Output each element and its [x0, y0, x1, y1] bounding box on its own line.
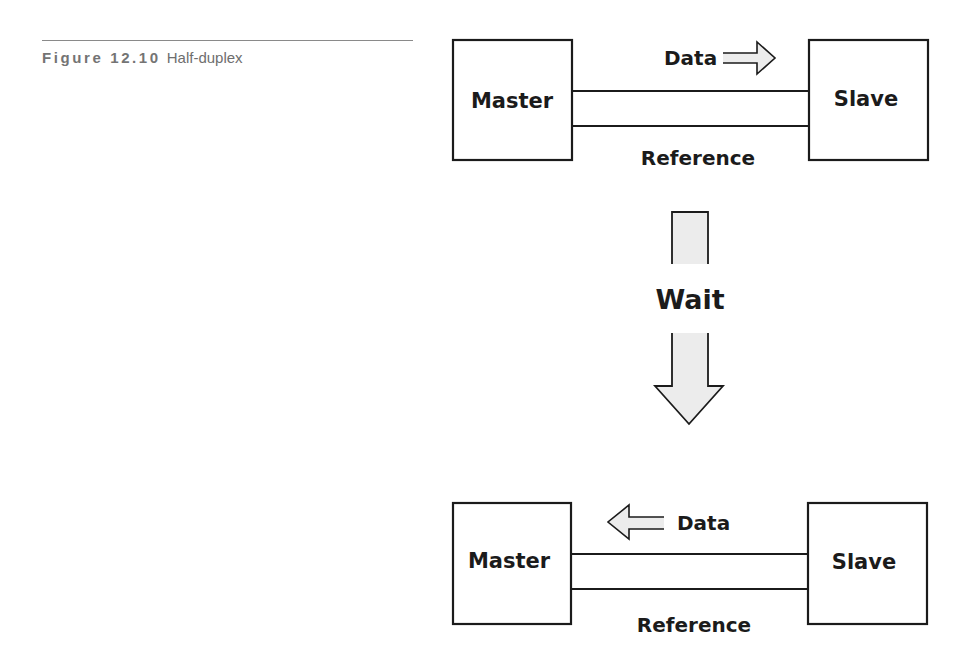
right-arrow-icon: [723, 42, 775, 74]
wait-label: Wait: [655, 284, 724, 315]
phase1-diagram: Master Slave Data Reference: [453, 40, 928, 170]
down-arrow-shaft-top: [672, 212, 708, 264]
phase2-data-label: Data: [677, 511, 730, 535]
phase1-reference-label: Reference: [641, 146, 755, 170]
phase2-slave-label: Slave: [832, 550, 896, 574]
phase2-master-label: Master: [468, 549, 551, 573]
phase2-diagram: Master Slave Data Reference: [453, 503, 927, 637]
left-arrow-icon: [608, 505, 664, 539]
phase1-master-label: Master: [471, 89, 554, 113]
phase1-slave-label: Slave: [834, 87, 898, 111]
phase2-reference-label: Reference: [637, 613, 751, 637]
half-duplex-diagram: Master Slave Data Reference Wait Master …: [0, 0, 978, 667]
phase1-data-label: Data: [664, 46, 717, 70]
down-arrow-icon: [655, 333, 723, 424]
wait-transition: Wait: [655, 212, 725, 424]
